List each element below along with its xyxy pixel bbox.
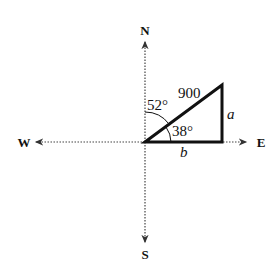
south-label: S	[141, 247, 148, 262]
angle-38-label: 38°	[172, 123, 193, 139]
side-b-label: b	[180, 144, 188, 160]
angle-52-label: 52°	[147, 97, 168, 113]
angle-arc-east	[166, 127, 171, 142]
east-label: E	[257, 135, 266, 150]
west-label: W	[18, 135, 31, 150]
hypotenuse-label: 900	[178, 85, 201, 101]
north-label: N	[140, 23, 150, 38]
angle-arc-north	[145, 112, 169, 124]
side-a-label: a	[227, 106, 235, 122]
compass-diagram: N S W E 900 a b 52° 38°	[0, 0, 279, 265]
